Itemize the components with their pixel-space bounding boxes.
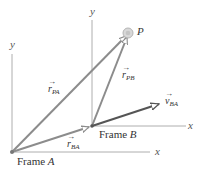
frame-a-label: Frame A bbox=[17, 156, 55, 167]
frame-a-origin-dot bbox=[10, 150, 14, 154]
vector-subscript: BA bbox=[71, 143, 80, 151]
diagram-canvas bbox=[0, 0, 204, 171]
vector-v-ba-label: →vBA bbox=[165, 96, 178, 108]
frame-b-label-letter: B bbox=[130, 128, 137, 140]
frame-a-label-letter: A bbox=[48, 155, 55, 167]
frame-a-y-label: y bbox=[10, 39, 15, 50]
vector-arrow-icon: → bbox=[122, 64, 130, 72]
vector-arrow-icon: → bbox=[67, 133, 75, 141]
vector-r-pa-label: →rPA bbox=[48, 84, 60, 96]
point-p-dot bbox=[126, 31, 131, 36]
frame-b-label: Frame B bbox=[99, 129, 137, 140]
vector-subscript: BA bbox=[169, 100, 178, 108]
point-p-label: P bbox=[137, 26, 144, 37]
frame-b-y-label: y bbox=[90, 6, 95, 17]
frame-b-x-label: x bbox=[188, 120, 193, 131]
frame-b-label-prefix: Frame bbox=[99, 128, 130, 140]
vector-v-ba bbox=[92, 104, 159, 126]
vector-r-ba-label: →rBA bbox=[67, 139, 79, 151]
vector-r-pb-label: →rPB bbox=[122, 70, 134, 82]
vector-subscript: PB bbox=[126, 74, 135, 82]
vector-arrow-icon: → bbox=[48, 78, 56, 86]
frame-a-label-prefix: Frame bbox=[17, 155, 48, 167]
frame-a-x-label: x bbox=[155, 146, 160, 157]
frame-b-origin-dot bbox=[90, 124, 94, 128]
vector-subscript: PA bbox=[52, 88, 60, 96]
vector-arrow-icon: → bbox=[165, 90, 173, 98]
